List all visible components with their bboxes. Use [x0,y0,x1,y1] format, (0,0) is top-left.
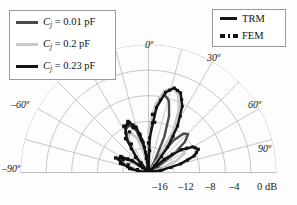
legend-swatch-trm [220,17,237,20]
radial-label-zero-db: 0 dB [257,181,277,192]
legend-label-trm: TRM [242,13,265,24]
polar-radiation-pattern-figure: –90º –60º 0º 30º 60º 90º –16 –12 –8 –4 0… [0,0,297,205]
legend-swatch-cj-023 [16,65,38,68]
radial-label-minus8: –8 [205,181,216,192]
angle-label-pos30: 30º [207,52,220,63]
legend-item-cj-001[interactable]: Cj = 0.01 pF [10,11,115,33]
radial-label-minus4: –4 [229,181,240,192]
legend-swatch-fem [220,34,237,38]
radial-label-minus16: –16 [152,181,168,192]
angle-label-neg90: –90º [2,163,20,174]
angle-label-pos60: 60º [248,99,261,110]
angle-label-neg60: –60º [11,99,29,110]
legend-item-cj-023[interactable]: Cj = 0.23 pF [10,55,115,77]
legend-label-cj-023: Cj = 0.23 pF [43,60,95,73]
legend-label-fem: FEM [242,30,264,41]
legend-item-trm[interactable]: TRM [213,10,285,27]
legend-item-cj-02[interactable]: Cj = 0.2 pF [10,33,115,55]
legend-label-cj-02: Cj = 0.2 pF [43,38,90,51]
legend-label-cj-001: Cj = 0.01 pF [43,16,95,29]
legend-swatch-cj-001 [16,21,38,24]
radial-label-minus12: –12 [178,181,194,192]
legend-method: TRM FEM [212,9,286,47]
legend-item-fem[interactable]: FEM [213,27,285,44]
angle-label-pos90: 90º [258,143,271,154]
legend-swatch-cj-02 [16,43,38,46]
legend-capacitance: Cj = 0.01 pF Cj = 0.2 pF Cj = 0.23 pF [9,10,116,80]
angle-label-zero: 0º [145,39,153,50]
